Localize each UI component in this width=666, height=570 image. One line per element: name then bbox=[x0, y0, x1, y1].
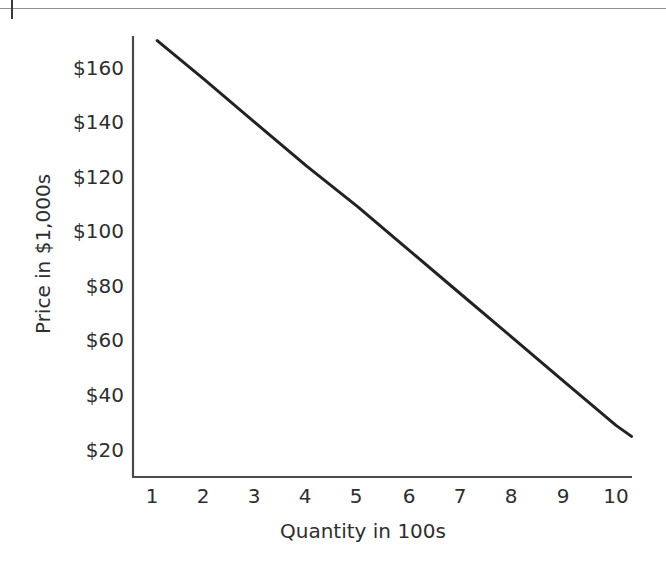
y-tick-label: $80 bbox=[56, 276, 124, 296]
y-tick-3-wrap: $80 bbox=[56, 276, 124, 296]
y-tick-label: $40 bbox=[56, 385, 124, 405]
y-tick-label: $140 bbox=[56, 112, 124, 132]
x-tick-label: 2 bbox=[183, 485, 223, 507]
x-tick-label: 1 bbox=[132, 485, 172, 507]
x-axis-title: Quantity in 100s bbox=[0, 519, 666, 543]
y-tick-label: $100 bbox=[56, 221, 124, 241]
x-tick-label: 4 bbox=[285, 485, 325, 507]
y-tick-0-wrap: $20 bbox=[56, 440, 124, 460]
x-axis-title-text: Quantity in 100s bbox=[220, 519, 446, 543]
y-tick-label: $160 bbox=[56, 58, 124, 78]
chart-page: $20 $40 $60 $80 $100 $120 $140 $160 1 2 … bbox=[0, 0, 666, 570]
demand-line bbox=[157, 41, 631, 437]
x-tick-label: 10 bbox=[596, 485, 636, 507]
y-tick-7-wrap: $160 bbox=[56, 58, 124, 78]
y-tick-6-wrap: $140 bbox=[56, 112, 124, 132]
y-tick-label: $60 bbox=[56, 330, 124, 350]
x-tick-label: 7 bbox=[440, 485, 480, 507]
demand-curve-figure: $20 $40 $60 $80 $100 $120 $140 $160 1 2 … bbox=[0, 0, 666, 570]
y-tick-4-wrap: $100 bbox=[56, 221, 124, 241]
y-tick-2-wrap: $60 bbox=[56, 330, 124, 350]
y-tick-1-wrap: $40 bbox=[56, 385, 124, 405]
x-tick-label: 9 bbox=[543, 485, 583, 507]
x-tick-label: 5 bbox=[336, 485, 376, 507]
x-tick-label: 3 bbox=[234, 485, 274, 507]
x-tick-label: 8 bbox=[491, 485, 531, 507]
y-tick-label: $20 bbox=[56, 440, 124, 460]
x-tick-label: 6 bbox=[389, 485, 429, 507]
y-axis-title: Price in $1,000s bbox=[32, 139, 54, 369]
y-tick-5-wrap: $120 bbox=[56, 167, 124, 187]
y-tick-label: $120 bbox=[56, 167, 124, 187]
